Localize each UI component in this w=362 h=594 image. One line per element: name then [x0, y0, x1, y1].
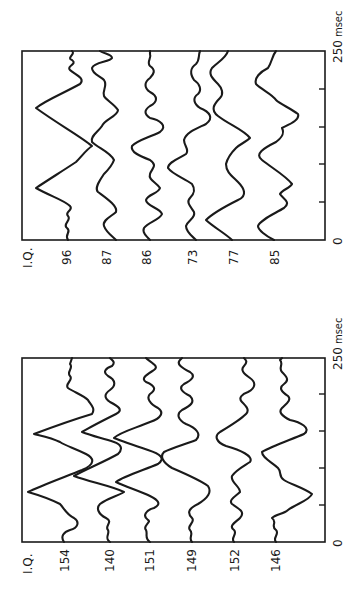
bottom-panel-axis-labels: 0 250msec	[331, 317, 345, 547]
top-axis-start: 0	[331, 237, 345, 245]
top-trace-iq-87	[92, 51, 118, 240]
bottom-label-151: 151	[143, 549, 157, 572]
bottom-label-152: 152	[228, 549, 242, 572]
top-label-86: 86	[140, 250, 154, 265]
top-label-73: 73	[186, 250, 200, 265]
bottom-trace-iq-152	[217, 358, 255, 542]
top-label-96: 96	[60, 250, 74, 265]
top-trace-iq-85	[256, 51, 299, 240]
top-panel-labels: I.Q. 96 87 86 73 77 85	[21, 247, 282, 268]
eeg-waveform-figure: I.Q. 96 87 86 73 77 85 0 250msec I.Q	[0, 0, 362, 594]
bottom-trace-iq-149	[162, 358, 209, 542]
bottom-label-154: 154	[58, 549, 72, 572]
top-panel-axis-labels: 0 250msec	[331, 10, 345, 245]
top-label-77: 77	[227, 250, 241, 265]
bottom-panel-labels: I.Q. 154 140 151 149 152 146	[21, 549, 283, 574]
bottom-panel-ticks	[319, 394, 325, 505]
bottom-axis-start: 0	[331, 539, 345, 547]
top-axis-end: 250msec	[331, 10, 345, 63]
top-trace-iq-77	[206, 51, 250, 240]
bottom-label-146: 146	[269, 549, 283, 572]
top-panel: I.Q. 96 87 86 73 77 85 0 250msec	[21, 10, 345, 268]
top-label-85: 85	[268, 250, 282, 265]
bottom-label-149: 149	[185, 549, 199, 572]
top-trace-iq-96	[36, 51, 92, 240]
bottom-panel: I.Q. 154 140 151 149 152 146 0 250msec	[21, 317, 345, 574]
top-label-87: 87	[100, 250, 114, 265]
bottom-trace-iq-154	[28, 358, 93, 542]
bottom-label-140: 140	[103, 549, 117, 572]
bottom-iq-header: I.Q.	[21, 553, 35, 574]
top-trace-iq-86	[132, 51, 164, 240]
top-trace-iq-73	[168, 51, 210, 240]
bottom-trace-iq-146	[262, 358, 312, 542]
top-iq-header: I.Q.	[21, 247, 35, 268]
bottom-axis-end: 250msec	[331, 317, 345, 370]
top-panel-ticks	[319, 89, 325, 202]
bottom-trace-iq-140	[74, 358, 124, 542]
